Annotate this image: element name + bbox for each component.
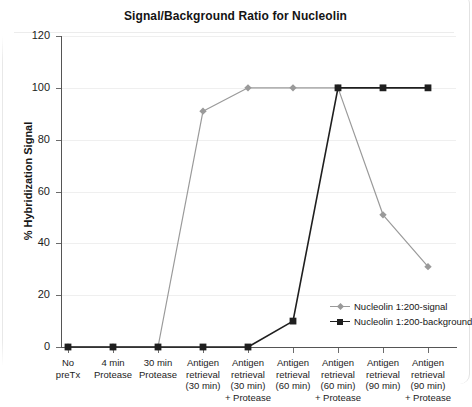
data-point-square [425, 84, 432, 91]
legend-marker [336, 303, 343, 310]
data-point-diamond [199, 107, 206, 114]
data-point-square [245, 344, 252, 351]
data-point-square [200, 344, 207, 351]
data-point-square [290, 318, 297, 325]
legend-swatch-diamond-icon [330, 302, 350, 312]
data-point-diamond [244, 84, 251, 91]
data-point-square [380, 84, 387, 91]
data-point-square [65, 344, 72, 351]
legend-label: Nucleolin 1:200-signal [354, 299, 447, 314]
legend-swatch-square-icon [330, 317, 350, 327]
legend-item: Nucleolin 1:200-background [330, 314, 472, 329]
legend-item: Nucleolin 1:200-signal [330, 299, 472, 314]
legend-label: Nucleolin 1:200-background [354, 314, 472, 329]
data-point-square [110, 344, 117, 351]
data-point-square [155, 344, 162, 351]
data-point-diamond [289, 84, 296, 91]
data-point-square [335, 84, 342, 91]
legend-marker [337, 319, 343, 325]
chart-legend: Nucleolin 1:200-signalNucleolin 1:200-ba… [330, 299, 472, 329]
